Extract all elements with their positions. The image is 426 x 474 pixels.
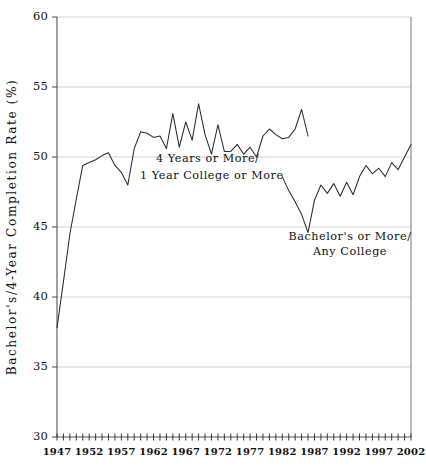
x-tick-label-1977: 1977 (236, 446, 265, 457)
y-axis-ticks: 30354045505560 (33, 9, 57, 443)
x-tick-label-1982: 1982 (268, 446, 297, 457)
annotation-line-1: Bachelor's or More/ (288, 230, 411, 243)
line-chart: 30354045505560 1947195219571962196719721… (0, 0, 426, 474)
x-tick-label-1962: 1962 (139, 446, 168, 457)
y-tick-label-50: 50 (33, 149, 48, 163)
x-tick-label-1987: 1987 (300, 446, 329, 457)
x-tick-label-1992: 1992 (332, 446, 361, 457)
x-tick-label-1957: 1957 (107, 446, 136, 457)
x-tick-label-1972: 1972 (204, 446, 233, 457)
annotation-line-2: 1 Year College or More (140, 169, 284, 182)
x-tick-label-1947: 1947 (43, 446, 72, 457)
series-line-0 (57, 104, 308, 328)
y-tick-label-30: 30 (33, 429, 48, 443)
series-line-1 (282, 144, 411, 232)
x-tick-label-1967: 1967 (171, 446, 200, 457)
annotation-four-years-or-more: 4 Years or More/ 1 Year College or More (140, 152, 284, 182)
annotation-line-2: Any College (312, 245, 387, 258)
y-tick-label-40: 40 (33, 289, 48, 303)
annotation-bachelors-or-more: Bachelor's or More/ Any College (288, 230, 411, 258)
chart-container: 30354045505560 1947195219571962196719721… (0, 0, 426, 474)
x-tick-label-2002: 2002 (397, 446, 426, 457)
y-tick-label-60: 60 (33, 9, 48, 23)
gridlines (57, 17, 411, 367)
x-axis-tick-labels: 1947195219571962196719721977198219871992… (43, 446, 426, 457)
annotation-line-1: 4 Years or More/ (156, 152, 259, 165)
x-tick-label-1952: 1952 (75, 446, 104, 457)
y-tick-label-55: 55 (33, 79, 48, 93)
data-series-group (57, 104, 411, 328)
x-tick-label-1997: 1997 (364, 446, 393, 457)
y-tick-label-35: 35 (33, 359, 48, 373)
y-tick-label-45: 45 (33, 219, 48, 233)
y-axis-title: Bachelor's/4-Year Completion Rate (%) (5, 79, 19, 376)
